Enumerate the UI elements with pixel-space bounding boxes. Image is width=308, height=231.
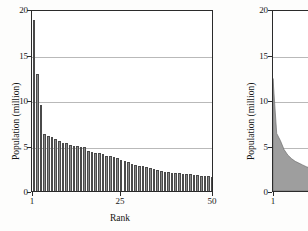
bar xyxy=(76,146,79,191)
right-area-series xyxy=(273,11,308,191)
bar xyxy=(167,172,170,191)
bar xyxy=(207,176,210,191)
left-ytick-15: 15 xyxy=(4,52,28,61)
bar xyxy=(182,174,185,191)
right-ytick-mark-0 xyxy=(268,192,272,193)
bar xyxy=(138,166,141,191)
bar xyxy=(185,174,188,191)
bar xyxy=(134,165,137,191)
right-ytick-15: 15 xyxy=(249,52,268,61)
bar xyxy=(102,154,105,191)
bar xyxy=(109,156,112,191)
right-ytick-10: 10 xyxy=(249,97,268,106)
bar xyxy=(62,143,65,191)
bar xyxy=(94,153,97,191)
left-x-axis-title: Rank xyxy=(90,213,150,223)
bar xyxy=(145,167,148,191)
figure-canvas: Population (million) 20 15 10 5 0 1 25 5… xyxy=(0,0,308,231)
bar xyxy=(47,136,50,192)
bar xyxy=(200,176,203,191)
left-ytick-20: 20 xyxy=(4,6,28,15)
right-xtick-1: 1 xyxy=(265,197,281,206)
bar xyxy=(73,146,76,192)
bar xyxy=(105,156,108,191)
bar xyxy=(178,173,181,191)
bar xyxy=(164,172,167,191)
left-ytick-5: 5 xyxy=(4,143,28,152)
bar xyxy=(36,74,39,191)
left-ytick-10: 10 xyxy=(4,97,28,106)
bar xyxy=(116,158,119,191)
bar xyxy=(65,143,68,191)
bar xyxy=(51,137,54,191)
right-ytick-5: 5 xyxy=(249,143,268,152)
bar xyxy=(127,162,130,191)
bar xyxy=(87,151,90,191)
right-plot-area xyxy=(272,10,308,192)
left-plot-area xyxy=(31,10,213,192)
bar xyxy=(83,147,86,191)
bar xyxy=(149,168,152,191)
bar xyxy=(40,105,43,191)
bar xyxy=(54,139,57,191)
bar xyxy=(153,169,156,191)
bar xyxy=(156,170,159,191)
bar xyxy=(196,175,199,191)
bar xyxy=(142,166,145,191)
bar xyxy=(160,171,163,191)
left-panel: Population (million) 20 15 10 5 0 1 25 5… xyxy=(0,0,215,231)
bar xyxy=(69,145,72,191)
right-panel: Population (million) 20 15 10 5 0 1 xyxy=(241,0,308,231)
bar xyxy=(120,160,123,191)
bar xyxy=(91,152,94,191)
bar xyxy=(98,153,101,191)
left-bar-series xyxy=(32,11,212,191)
bar xyxy=(131,164,134,191)
left-ytick-0: 0 xyxy=(4,188,28,197)
left-ytick-mark-0 xyxy=(27,192,31,193)
bar xyxy=(33,20,36,191)
bar xyxy=(58,141,61,191)
bar xyxy=(80,147,83,191)
bar xyxy=(171,173,174,191)
left-xtick-50: 50 xyxy=(204,197,220,206)
bar xyxy=(193,175,196,191)
left-xtick-1: 1 xyxy=(24,197,40,206)
bar xyxy=(124,161,127,191)
bar xyxy=(189,174,192,191)
left-xtick-25: 25 xyxy=(112,197,128,206)
bar xyxy=(174,173,177,191)
bar xyxy=(204,176,207,191)
bar xyxy=(113,157,116,191)
bar xyxy=(211,177,213,191)
right-ytick-0: 0 xyxy=(249,188,268,197)
right-ytick-20: 20 xyxy=(249,6,268,15)
bar xyxy=(43,134,46,191)
